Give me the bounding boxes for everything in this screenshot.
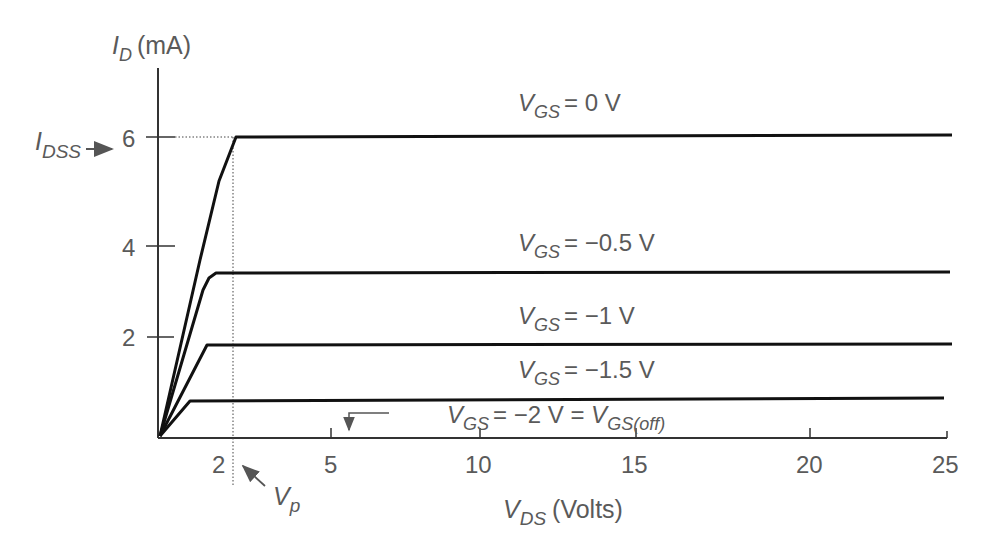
curve-label-vgs-neg1: VGS= −1 V (518, 302, 635, 335)
svg-text:VDS(Volts): VDS(Volts) (503, 495, 623, 529)
y-tick-label-6: 6 (122, 125, 135, 152)
x-tick-label-10: 10 (465, 451, 492, 478)
vgs-off-pointer-arrow (349, 413, 389, 430)
idss-label-main: I (35, 127, 42, 155)
y-tick-label-2: 2 (122, 324, 135, 351)
y-tick-label-4: 4 (122, 234, 135, 261)
vp-arrow-icon (243, 466, 265, 486)
x-tick-label-2: 2 (212, 451, 225, 478)
x-tick-label-15: 15 (621, 451, 648, 478)
y-axis-label-sub: D (119, 45, 132, 65)
curve-label-vgs-off: VGS= −2 V = VGS(off) (447, 401, 665, 434)
curve-label-vgs-neg0.5: VGS= −0.5 V (518, 229, 655, 262)
x-tick-label-25: 25 (932, 451, 959, 478)
y-axis-label-unit: (mA) (137, 31, 191, 59)
x-axis-label-sub: DS (520, 508, 547, 529)
x-tick-label-20: 20 (796, 451, 823, 478)
svg-text:IDSS: IDSS (35, 127, 81, 162)
jfet-characteristic-chart: ID(mA) IDSS 6 4 2 2 5 10 15 20 25 Vp VDS… (0, 0, 991, 555)
idss-label-sub: DSS (42, 141, 81, 162)
curve-label-vgs-neg1.5: VGS= −1.5 V (518, 356, 655, 389)
curve-label-vgs-0: VGS= 0 V (518, 89, 621, 122)
curve-vgs-0 (160, 135, 952, 436)
svg-text:Vp: Vp (273, 482, 300, 516)
x-tick-label-5: 5 (324, 451, 337, 478)
x-axis-label-unit: (Volts) (552, 495, 623, 523)
y-axis-label-main: I (112, 31, 119, 59)
vp-label-sub: p (289, 495, 301, 516)
svg-text:ID(mA): ID(mA) (112, 31, 191, 65)
